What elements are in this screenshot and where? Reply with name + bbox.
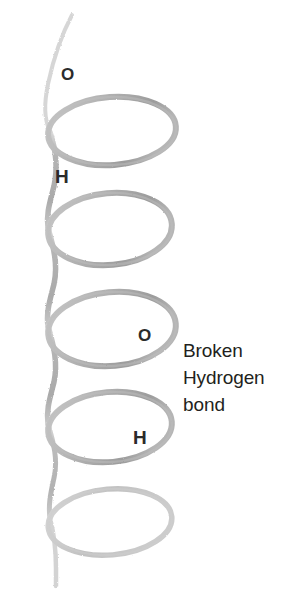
annotation-line-1: Broken: [183, 337, 303, 364]
broken-hydrogen-bond-annotation: Broken Hydrogen bond: [183, 337, 303, 418]
helix-coil-2: [45, 188, 175, 271]
atom-label-oxygen-top: O: [61, 66, 74, 83]
helix-coil-1: [46, 93, 178, 170]
alpha-helix-figure: O H O H Broken Hydrogen bond: [0, 0, 306, 608]
atom-label-hydrogen-lower: H: [133, 428, 147, 447]
atom-label-oxygen-middle: O: [138, 327, 151, 344]
annotation-line-2: Hydrogen: [183, 364, 303, 391]
annotation-line-3: bond: [183, 391, 303, 418]
atom-label-hydrogen-top: H: [55, 167, 69, 186]
helix-coil-5: [45, 484, 174, 561]
helix-coil-3: [45, 287, 179, 372]
helix-coil-4: [45, 387, 175, 468]
helix-drawing: [0, 0, 306, 608]
